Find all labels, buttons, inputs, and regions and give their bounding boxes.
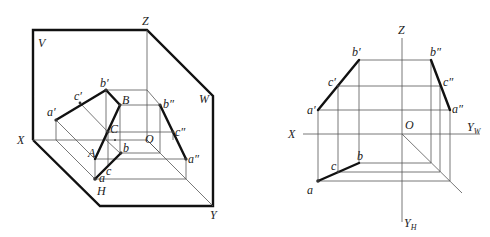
point-c-prime [337, 85, 340, 88]
label-b-dprime: b″ [430, 45, 442, 59]
point-b [120, 152, 123, 155]
label-W: W [199, 92, 210, 106]
label-a-dprime: a″ [188, 152, 200, 166]
projection-figure: V W H Z X Y O a′ c′ b′ B C A b″ c″ a″ b … [0, 0, 490, 237]
dot-mark [114, 139, 116, 141]
label-a-dprime: a″ [452, 102, 464, 116]
orthographic-view: Z X O YW YH b′ c′ a′ b″ c″ a″ b c a [287, 23, 482, 232]
label-a-prime: a′ [307, 103, 316, 117]
point-B [119, 104, 122, 107]
label-a-prime: a′ [47, 105, 56, 119]
label-b-dprime: b″ [163, 97, 175, 111]
label-O: O [145, 132, 154, 146]
point-b-dprime [158, 103, 161, 106]
label-a: a [307, 183, 313, 197]
axonometric-view: V W H Z X Y O a′ c′ b′ B C A b″ c″ a″ b … [16, 14, 218, 222]
point-a [93, 177, 97, 181]
label-B: B [122, 93, 130, 107]
label-c-dprime: c″ [175, 125, 186, 139]
point-c-dprime [172, 131, 175, 134]
label-b: b [123, 141, 129, 155]
label-c-prime: c′ [328, 75, 336, 89]
45-degree-line [402, 134, 462, 193]
label-Yh: YH [404, 216, 418, 232]
label-Z: Z [142, 14, 149, 28]
proj-line [80, 103, 108, 132]
label-O: O [405, 118, 414, 132]
label-c: c [331, 159, 337, 173]
label-X: X [287, 127, 296, 141]
proj-line [147, 90, 160, 105]
label-H: H [96, 184, 107, 198]
label-C: C [110, 122, 119, 136]
label-A: A [87, 146, 96, 160]
point-C [107, 131, 110, 134]
label-X: X [16, 133, 25, 147]
label-V: V [38, 36, 47, 50]
label-c: c [106, 164, 112, 178]
label-b-prime: b′ [352, 45, 361, 59]
label-Y: Y [210, 208, 218, 222]
label-Z: Z [398, 23, 405, 37]
label-b-prime: b′ [100, 76, 109, 90]
point-a [316, 179, 320, 183]
label-b: b [357, 149, 363, 163]
label-a: a [99, 171, 105, 185]
label-c-dprime: c″ [443, 75, 454, 89]
label-Yw: YW [467, 120, 482, 136]
point-c [337, 171, 340, 174]
label-c-prime: c′ [74, 89, 82, 103]
